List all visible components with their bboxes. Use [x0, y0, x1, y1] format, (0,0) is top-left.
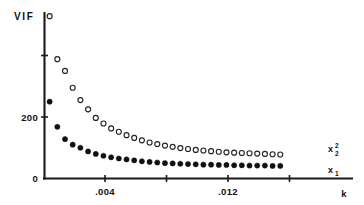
data-point	[270, 163, 275, 168]
x-tick-label-012: .012	[218, 186, 238, 197]
legend-x1-subscript: 1	[335, 170, 339, 177]
data-point	[63, 68, 68, 73]
y-tick-label-0: 0	[32, 173, 38, 184]
data-point	[170, 144, 175, 149]
data-point	[62, 137, 67, 142]
vif-vs-k-scatter-plot: 0 200 .004 .012 VIF k x 2 2 x 1	[0, 0, 364, 205]
data-point	[86, 107, 91, 112]
data-point	[109, 155, 114, 160]
data-point	[147, 159, 152, 164]
data-point	[278, 163, 283, 168]
data-point	[193, 147, 198, 152]
chart-figure: 0 200 .004 .012 VIF k x 2 2 x 1	[0, 0, 364, 205]
data-point	[47, 99, 52, 104]
data-point	[93, 115, 98, 120]
data-point	[224, 150, 229, 155]
data-point	[139, 138, 144, 143]
data-point	[70, 85, 75, 90]
data-point	[47, 14, 52, 19]
data-point	[124, 133, 129, 138]
legend-x2-superscript: 2	[335, 142, 339, 149]
data-point	[116, 129, 121, 134]
data-point	[186, 146, 191, 151]
data-point	[262, 151, 267, 156]
data-point	[147, 140, 152, 145]
data-point	[278, 152, 283, 157]
data-point	[116, 156, 121, 161]
plot-background	[0, 0, 364, 205]
legend-x2-subscript: 2	[335, 150, 339, 157]
data-point	[239, 150, 244, 155]
data-point	[162, 143, 167, 148]
x-tick-label-004: .004	[95, 186, 115, 197]
data-point	[132, 135, 137, 140]
data-point	[209, 149, 214, 154]
data-point	[132, 158, 137, 163]
data-point	[255, 151, 260, 156]
data-point	[55, 124, 60, 129]
data-point	[155, 142, 160, 147]
y-axis-title: VIF	[14, 11, 34, 22]
data-point	[224, 162, 229, 167]
data-point	[78, 98, 83, 103]
legend-x2-base: x	[328, 144, 333, 154]
data-point	[185, 161, 190, 166]
data-point	[124, 157, 129, 162]
data-point	[155, 160, 160, 165]
data-point	[247, 163, 252, 168]
data-point	[239, 163, 244, 168]
data-point	[178, 146, 183, 151]
data-point	[270, 152, 275, 157]
data-point	[216, 162, 221, 167]
data-point	[93, 151, 98, 156]
data-point	[232, 163, 237, 168]
data-point	[178, 161, 183, 166]
data-point	[85, 149, 90, 154]
data-point	[255, 163, 260, 168]
data-point	[139, 159, 144, 164]
x-axis-title: k	[341, 188, 347, 199]
y-tick-label-200: 200	[21, 112, 38, 123]
legend-x1-base: x	[328, 165, 333, 175]
data-point	[232, 150, 237, 155]
data-point	[193, 162, 198, 167]
data-point	[70, 142, 75, 147]
data-point	[101, 121, 106, 126]
data-point	[162, 161, 167, 166]
data-point	[101, 153, 106, 158]
data-point	[201, 148, 206, 153]
data-point	[109, 126, 114, 131]
data-point	[78, 145, 83, 150]
data-point	[201, 162, 206, 167]
data-point	[208, 162, 213, 167]
data-point	[170, 161, 175, 166]
data-point	[55, 57, 60, 62]
data-point	[216, 149, 221, 154]
data-point	[247, 151, 252, 156]
data-point	[262, 163, 267, 168]
